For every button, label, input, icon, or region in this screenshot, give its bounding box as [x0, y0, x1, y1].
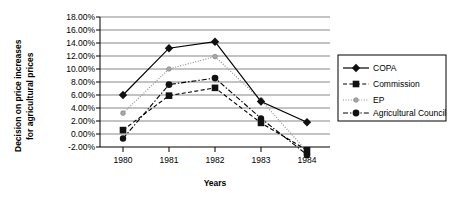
y-tick-label: 2.00% [71, 116, 96, 126]
dot-marker-icon [354, 98, 359, 103]
y-axis-title: Decision on price increases for agricult… [13, 39, 35, 152]
y-axis-title-line2: for agricultural prices [25, 52, 35, 140]
square-marker-icon [353, 81, 360, 88]
x-tick-label: 1982 [206, 155, 225, 165]
x-tick-label: 1983 [252, 155, 271, 165]
y-tick-label: 4.00% [71, 103, 96, 113]
y-tick-label: 6.00% [71, 90, 96, 100]
legend-label-copa: COPA [373, 63, 397, 73]
y-tick-label: 10.00% [66, 64, 95, 74]
chart-container: Decision on price increases for agricult… [0, 0, 450, 202]
x-tick-label: 1980 [114, 155, 133, 165]
y-tick-label: 16.00% [66, 25, 95, 35]
y-tick-label: 0.00% [71, 129, 96, 139]
y-tick-label: -2.00% [68, 142, 95, 152]
x-tick-label: 1981 [160, 155, 179, 165]
y-tick-label: 18.00% [66, 12, 95, 22]
y-tick-label: 14.00% [66, 38, 95, 48]
legend-label-agricultural-council: Agricultural Council [373, 108, 446, 118]
x-axis-tick-labels: 1980 1981 1982 1983 1984 [114, 155, 317, 165]
x-axis-ticks [123, 147, 307, 152]
line-chart: Decision on price increases for agricult… [0, 0, 450, 202]
legend-label-commission: Commission [373, 79, 420, 89]
x-tick-label: 1984 [298, 155, 317, 165]
y-tick-label: 12.00% [66, 51, 95, 61]
legend-label-ep: EP [373, 95, 385, 105]
circle-marker-icon [353, 110, 360, 117]
y-tick-label: 8.00% [71, 77, 96, 87]
y-axis-title-line1: Decision on price increases [13, 39, 23, 152]
y-axis-ticks [96, 17, 100, 147]
y-axis-tick-labels: 18.00% 16.00% 14.00% 12.00% 10.00% 8.00%… [66, 12, 95, 152]
x-axis-title: Years [204, 178, 227, 188]
chart-legend: COPA Commission EP Agricultural Council [338, 55, 446, 121]
